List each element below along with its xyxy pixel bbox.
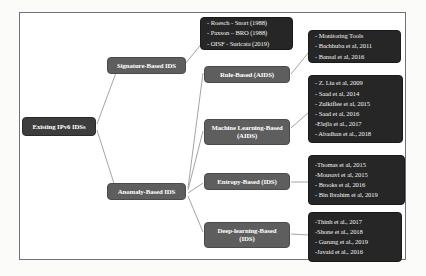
citation-item: -Javaid et al., 2016: [315, 247, 398, 257]
taxonomy-diagram: Existing IPv6 IDSs Signature-Based IDS A…: [0, 0, 426, 276]
edge-deep-cites: [291, 234, 309, 235]
node-label: Existing IPv6 IDSs: [26, 123, 92, 131]
node-label: Signature-Based IDS: [111, 62, 182, 70]
node-label-line2: (IDS): [208, 235, 286, 243]
node-deep-learning-based-ids[interactable]: Deep-learning-Based (IDS): [204, 222, 290, 248]
citation-box-signature[interactable]: - Roesch - Snort (1988) - Paxson – BRO (…: [200, 17, 293, 50]
node-label-line1: Deep-learning-Based: [208, 227, 286, 235]
node-label: Anomaly-Based IDS: [111, 188, 182, 196]
citation-item: - OISF - Suricata (2019): [207, 39, 289, 49]
node-signature-based-ids[interactable]: Signature-Based IDS: [107, 57, 186, 74]
citation-item: -Mousavi et al, 2015: [315, 170, 401, 180]
citation-item: -Shone et al., 2018: [315, 227, 398, 237]
citation-item: - Paxson – BRO (1988): [207, 28, 289, 38]
edge-anomaly-entropy: [188, 183, 203, 193]
edge-anomaly-deep: [188, 196, 203, 232]
citation-list: -Thomas et al, 2015 -Mousavi et al, 2015…: [312, 160, 401, 201]
citation-list: - Roesch - Snort (1988) - Paxson – BRO (…: [204, 18, 289, 49]
citation-item: - Bansal et al, 2016: [315, 52, 397, 62]
citation-list: - Monitoring Tools - Bachhuba et al, 201…: [312, 31, 397, 62]
citation-item: -Elejla et al., 2017: [315, 119, 399, 129]
node-label: Entropy-Based (IDS): [208, 178, 286, 186]
citation-item: - Roesch - Snort (1988): [207, 18, 289, 28]
citation-item: - Z. Liu et al, 2009: [315, 78, 399, 88]
citation-box-rule[interactable]: - Monitoring Tools - Bachhuba et al, 201…: [308, 30, 401, 63]
node-anomaly-based-ids[interactable]: Anomaly-Based IDS: [107, 183, 186, 200]
citation-item: - Saad et al, 2014: [315, 89, 399, 99]
node-existing-ipv6-idss[interactable]: Existing IPv6 IDSs: [22, 117, 96, 136]
node-label-line1: Machine Learning-Based: [208, 124, 286, 132]
citation-item: - Abadhan et al., 2018: [315, 129, 399, 139]
citation-list: - Z. Liu et al, 2009 - Saad et al, 2014 …: [312, 78, 399, 139]
citation-item: -Thomas et al, 2015: [315, 160, 401, 170]
edge-anomaly-rule: [188, 73, 203, 188]
citation-box-machine-learning[interactable]: - Z. Liu et al, 2009 - Saad et al, 2014 …: [308, 75, 403, 143]
citation-item: - Brooks et al, 2016: [315, 180, 401, 190]
edge-rule-cites: [291, 52, 309, 74]
edge-anomaly-ml: [188, 131, 203, 190]
citation-item: - Zulkiflee et al, 2015: [315, 99, 399, 109]
node-machine-learning-based-aids[interactable]: Machine Learning-Based (AIDS): [204, 119, 290, 145]
citation-item: - Bin Ibrahim et al, 2019: [315, 190, 401, 200]
citation-item: - Gurung et al., 2019: [315, 237, 398, 247]
citation-item: - Monitoring Tools: [315, 31, 397, 41]
citation-item: - Saad et al, 2016: [315, 109, 399, 119]
node-label: Rule-Based (AIDS): [208, 71, 286, 79]
node-rule-based-aids[interactable]: Rule-Based (AIDS): [204, 66, 290, 83]
edge-root-signature: [97, 70, 117, 124]
citation-box-deep-learning[interactable]: -Thinh et al., 2017 -Shone et al., 2018 …: [308, 212, 402, 262]
node-entropy-based-ids[interactable]: Entropy-Based (IDS): [204, 173, 290, 190]
citation-item: - Bachhuba et al, 2011: [315, 41, 397, 51]
citation-box-entropy[interactable]: -Thomas et al, 2015 -Mousavi et al, 2015…: [308, 155, 405, 205]
citation-list: -Thinh et al., 2017 -Shone et al., 2018 …: [312, 217, 398, 258]
node-label-line2: (AIDS): [208, 132, 286, 140]
edge-ml-cites: [291, 112, 309, 128]
citation-item: -Thinh et al., 2017: [315, 217, 398, 227]
